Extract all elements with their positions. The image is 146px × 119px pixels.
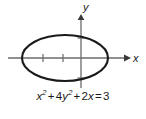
y-axis-label: y: [82, 1, 90, 13]
x-axis-arrow-icon: [124, 55, 131, 62]
equation-operator: +: [47, 90, 56, 102]
equation-exponent: 2: [68, 88, 72, 97]
equation-caption: x2+4y2+2x=3: [0, 90, 146, 102]
conic-graph-figure: y x x2+4y2+2x=3: [0, 0, 146, 119]
y-axis-arrow-icon: [78, 14, 85, 20]
equation-right-side: 3: [103, 90, 110, 102]
equation-operator: +: [73, 90, 82, 102]
x-axis-label: x: [132, 52, 139, 64]
equation-equals: =: [94, 90, 103, 102]
